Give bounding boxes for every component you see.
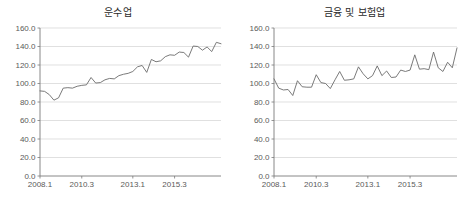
y-axis-tick-label: 120.0 — [249, 61, 270, 70]
chart-figure: 운수업 0.020.040.060.080.0100.0120.0140.016… — [0, 0, 473, 202]
y-axis-tick-label: 140.0 — [249, 42, 270, 51]
x-axis-tick-label: 2015.3 — [162, 180, 187, 189]
data-series-line — [40, 42, 221, 100]
y-axis-tick-label: 140.0 — [15, 42, 36, 51]
data-series-line — [274, 48, 457, 96]
x-axis-tick-label: 2010.3 — [304, 180, 329, 189]
y-axis-tick-label: 40.0 — [254, 135, 270, 144]
chart-panel-transportation: 운수업 0.020.040.060.080.0100.0120.0140.016… — [0, 0, 236, 202]
y-axis-tick-label: 100.0 — [15, 79, 36, 88]
line-chart-right: 0.020.040.060.080.0100.0120.0140.0160.02… — [236, 0, 473, 202]
chart-panel-finance-insurance: 금융 및 보험업 0.020.040.060.080.0100.0120.014… — [236, 0, 473, 202]
y-axis-tick-label: 80.0 — [254, 98, 270, 107]
y-axis-tick-label: 80.0 — [20, 98, 36, 107]
y-axis-tick-label: 60.0 — [254, 116, 270, 125]
y-axis-tick-label: 20.0 — [20, 153, 36, 162]
line-chart-left: 0.020.040.060.080.0100.0120.0140.0160.02… — [0, 0, 236, 202]
x-axis-tick-label: 2015.3 — [398, 180, 423, 189]
x-axis-tick-label: 2008.1 — [262, 180, 287, 189]
x-axis-tick-label: 2008.1 — [28, 180, 53, 189]
y-axis-tick-label: 120.0 — [15, 61, 36, 70]
y-axis-tick-label: 160.0 — [15, 24, 36, 33]
y-axis-tick-label: 40.0 — [20, 135, 36, 144]
x-axis-tick-label: 2013.1 — [121, 180, 146, 189]
y-axis-tick-label: 160.0 — [249, 24, 270, 33]
x-axis-tick-label: 2010.3 — [70, 180, 95, 189]
y-axis-tick-label: 20.0 — [254, 153, 270, 162]
y-axis-tick-label: 60.0 — [20, 116, 36, 125]
x-axis-tick-label: 2013.1 — [356, 180, 381, 189]
y-axis-tick-label: 100.0 — [249, 79, 270, 88]
